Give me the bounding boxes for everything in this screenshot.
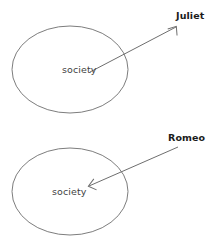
society-label-top: society bbox=[62, 64, 97, 75]
diagram-graphics bbox=[0, 0, 220, 249]
arrow-line-romeo bbox=[89, 147, 178, 186]
society-label-bottom: society bbox=[52, 186, 87, 197]
juliet-label: Juliet bbox=[176, 10, 204, 21]
romeo-label: Romeo bbox=[168, 132, 205, 143]
diagram-canvas: society Juliet society Romeo bbox=[0, 0, 220, 249]
